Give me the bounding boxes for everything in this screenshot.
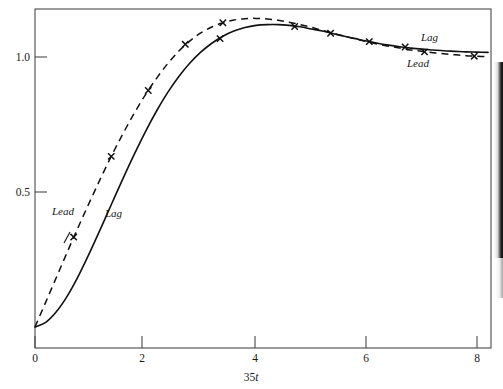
x-tick-label-4: 4 [252,352,258,364]
annotation-lag-right: Lag [420,31,439,43]
figure-caption [0,380,503,389]
y-tick-label-1: 1.0 [16,51,31,63]
y-tick-label-0: 0.5 [16,186,31,198]
figure-container: 1.0 0.5 0 2 4 6 8 35t Lead Lag Lag Lead [0,0,503,389]
annotation-lag-left: Lag [104,207,123,219]
x-tick-label-2: 2 [139,352,145,364]
x-tick-label-0: 0 [32,352,38,364]
annotation-lead-left: Lead [51,205,75,217]
annotation-lead-right: Lead [406,57,430,69]
x-tick-label-8: 8 [474,352,480,364]
lead-lag-step-response-chart: 1.0 0.5 0 2 4 6 8 35t Lead Lag Lag Lead [0,0,503,389]
x-tick-label-6: 6 [363,352,369,364]
